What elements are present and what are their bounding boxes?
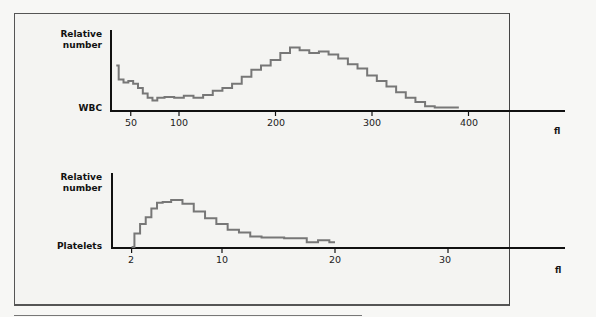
platelets-histogram-curve [132, 200, 335, 247]
platelets-axes [111, 173, 565, 253]
histogram-plots [0, 0, 596, 317]
wbc-histogram-curve [116, 47, 459, 107]
wbc-axes [110, 30, 565, 116]
